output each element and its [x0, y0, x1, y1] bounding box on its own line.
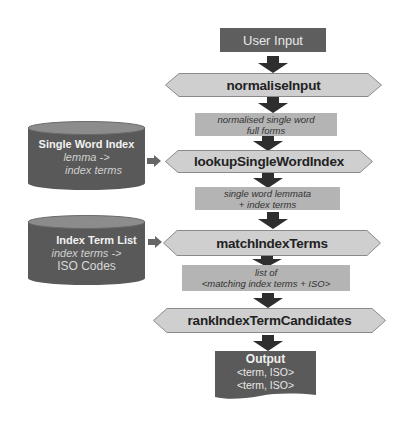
down-arrow-icon	[253, 173, 283, 188]
down-arrow-icon	[253, 136, 283, 151]
down-arrow-icon	[253, 293, 283, 308]
data-store-index-term-list: Index Term List index terms -> ISO Codes	[27, 215, 146, 286]
data-flow-matching-terms-list: list of <matching index terms + ISO>	[182, 265, 350, 291]
data-flow-line2: + index terms	[239, 199, 296, 210]
user-input-node: User Input	[220, 28, 326, 52]
store-line2: index terms	[51, 164, 122, 177]
process-label: normaliseInput	[227, 78, 321, 93]
down-arrow-icon	[258, 212, 288, 229]
process-lookup-single-word-index: lookupSingleWordIndex	[165, 150, 373, 173]
output-title: Output	[246, 353, 285, 366]
process-label: matchIndexTerms	[216, 236, 328, 251]
down-arrow-icon	[258, 56, 288, 73]
data-flow-line1: list of	[255, 267, 277, 278]
right-arrow-icon	[147, 155, 161, 167]
store-line2: ISO Codes	[57, 260, 116, 273]
data-flow-normalised-forms: normalised single word full forms	[195, 113, 337, 136]
down-arrow-icon	[258, 97, 288, 113]
down-arrow-icon	[253, 335, 283, 351]
process-label: lookupSingleWordIndex	[194, 154, 344, 169]
store-title: Index Term List	[36, 234, 136, 247]
data-flow-line1: single word lemmata	[224, 188, 311, 199]
output-line1: <term, ISO>	[237, 366, 294, 379]
process-match-index-terms: matchIndexTerms	[163, 230, 381, 256]
data-store-single-word-index: Single Word Index lemma -> index terms	[27, 121, 146, 191]
user-input-label: User Input	[243, 33, 303, 48]
right-arrow-icon	[148, 236, 162, 248]
process-label: rankIndexTermCandidates	[188, 313, 352, 328]
output-line2: <term, ISO>	[237, 379, 294, 392]
data-flow-line2: full forms	[247, 125, 286, 136]
data-flow-line2: <matching index terms + ISO>	[202, 278, 331, 289]
store-line1: lemma ->	[63, 151, 109, 164]
process-rank-index-term-candidates: rankIndexTermCandidates	[153, 308, 386, 333]
output-document: Output <term, ISO> <term, ISO>	[215, 351, 316, 401]
store-title: Single Word Index	[39, 138, 135, 151]
data-flow-line1: normalised single word	[217, 114, 314, 125]
data-flow-lemmata-index-terms: single word lemmata + index terms	[195, 187, 340, 210]
process-normalise-input: normaliseInput	[165, 73, 382, 97]
